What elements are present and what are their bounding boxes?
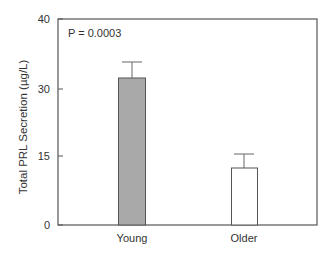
y-tick-label-30: 30 — [38, 83, 50, 95]
y-tick-label-40: 40 — [38, 13, 50, 25]
y-axis: 0 15 30 40 Total PRL Secretion (µg/L) — [17, 13, 63, 231]
plot-frame — [58, 19, 317, 225]
bar-rect-young — [119, 78, 146, 225]
x-label-young: Young — [117, 232, 148, 244]
bar-rect-older — [232, 168, 258, 225]
bar-chart: 0 15 30 40 Total PRL Secretion (µg/L) P … — [0, 0, 330, 255]
bar-older — [232, 154, 258, 225]
p-value-annotation: P = 0.0003 — [68, 27, 121, 39]
y-tick-label-0: 0 — [44, 219, 50, 231]
x-label-older: Older — [231, 232, 258, 244]
bar-young — [119, 62, 146, 225]
y-tick-label-15: 15 — [38, 150, 50, 162]
y-axis-label: Total PRL Secretion (µg/L) — [17, 59, 29, 194]
